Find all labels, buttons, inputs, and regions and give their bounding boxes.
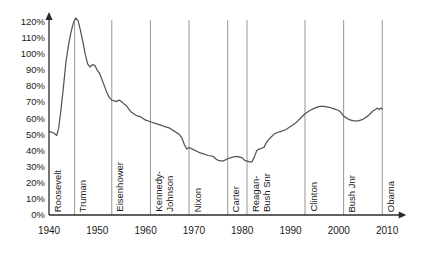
y-axis-tick-label: 40%: [26, 146, 45, 156]
x-axis-tick-label: 1960: [126, 225, 166, 236]
x-axis-tick-label: 2010: [367, 225, 407, 236]
y-axis-tick-label: 100%: [21, 49, 45, 59]
x-axis-arrow-icon: [399, 211, 407, 218]
era-label: Nixon: [193, 188, 204, 212]
y-axis-tick-label: 20%: [26, 178, 45, 188]
era-label: Kennedy- Johnson: [154, 171, 175, 212]
y-axis-tick-label: 60%: [26, 114, 45, 124]
y-axis-tick-label: 120%: [21, 17, 45, 27]
y-axis-tick-label: 0%: [31, 210, 45, 220]
y-axis-tick-label: 80%: [26, 81, 45, 91]
y-axis-tick-label: 30%: [26, 162, 45, 172]
y-axis-tick-label: 90%: [26, 65, 45, 75]
y-axis-tick-label: 50%: [26, 130, 45, 140]
era-label: Carter: [231, 186, 242, 212]
chart-plot-area: [0, 0, 431, 254]
x-axis-tick-label: 1950: [77, 225, 117, 236]
y-axis-tick-label: 10%: [26, 194, 45, 204]
debt-to-gdp-chart: 0%10%20%30%40%50%60%70%80%90%100%110%120…: [0, 0, 431, 254]
y-axis-tick-label: 110%: [21, 33, 45, 43]
era-label: Clinton: [309, 182, 320, 212]
x-axis-tick-label: 2000: [319, 225, 359, 236]
era-label: Reagan- Bush Snr: [251, 173, 272, 212]
x-axis-tick-label: 1970: [174, 225, 214, 236]
x-axis-tick-label: 1990: [271, 225, 311, 236]
era-label: Roosevelt: [53, 170, 64, 212]
era-label: Truman: [78, 180, 89, 212]
era-label: Obama: [386, 181, 397, 212]
data-line-series: [49, 18, 382, 162]
y-axis-arrow-icon: [45, 12, 52, 20]
era-label: Eisenhower: [115, 162, 126, 212]
x-axis-tick-label: 1980: [222, 225, 262, 236]
x-axis-tick-label: 1940: [29, 225, 69, 236]
y-axis-tick-label: 70%: [26, 97, 45, 107]
era-label: Bush Jnr: [347, 175, 358, 213]
